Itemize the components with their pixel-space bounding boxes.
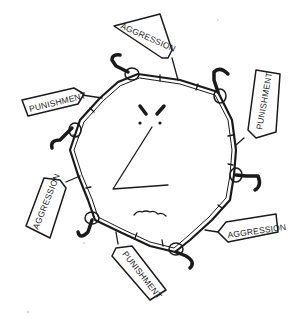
tag-punishment-upper-left: PUNISHMENT [22, 88, 102, 116]
tag-label: PUNISHMENT [120, 249, 164, 301]
tag-punishment-bottom: PUNISHMENT [112, 232, 166, 301]
tag-aggression-lower-right: AGGRESSION [205, 214, 287, 242]
hook-lower-left [78, 212, 99, 236]
right-eye [158, 121, 161, 124]
tag-aggression-lower-left: AGGRESSION [26, 172, 80, 238]
right-eyebrow [157, 106, 164, 114]
left-eye [138, 121, 141, 124]
chain-loop [70, 74, 236, 252]
nose [113, 127, 168, 189]
tag-punishment-upper-right: PUNISHMENT [236, 70, 280, 145]
frown-mouth [134, 211, 166, 216]
cartoon-illustration: AGGRESSION PUNISHMENT PUNISHMENT AGGRESS… [0, 0, 295, 326]
left-eyebrow [140, 106, 146, 114]
angry-face [113, 106, 168, 216]
